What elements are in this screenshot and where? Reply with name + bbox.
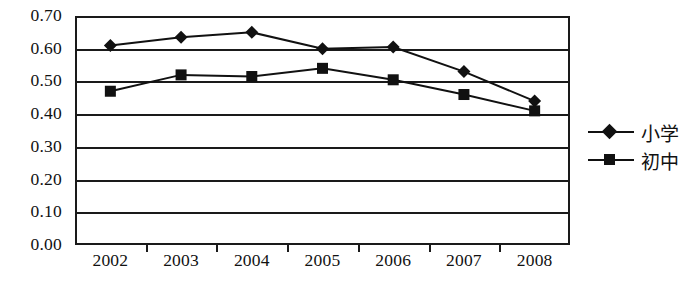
y-axis-tick-label: 0.30 [0, 138, 62, 156]
x-axis-tick [358, 245, 360, 252]
data-point-square[interactable] [458, 89, 469, 100]
line-chart: 0.700.600.500.400.300.200.100.00 2002200… [0, 0, 692, 286]
y-axis-tick-label: 0.10 [0, 203, 62, 221]
data-point-diamond[interactable] [175, 31, 188, 44]
x-axis-tick-label: 2005 [288, 252, 358, 270]
y-axis-tick-label: 0.00 [0, 236, 62, 254]
legend-label-junior: 初中 [641, 147, 679, 174]
data-point-square[interactable] [176, 69, 187, 80]
legend-label-primary: 小学 [641, 119, 679, 146]
legend-item-primary[interactable]: 小学 [588, 118, 692, 146]
y-axis-tick-label: 0.60 [0, 40, 62, 58]
y-axis-tick-label: 0.40 [0, 105, 62, 123]
data-point-square[interactable] [529, 105, 540, 116]
x-axis-tick-label: 2003 [146, 252, 216, 270]
diamond-marker-icon [588, 124, 634, 140]
data-point-diamond[interactable] [316, 42, 329, 55]
data-point-diamond[interactable] [387, 41, 400, 54]
y-axis-tick-label: 0.20 [0, 171, 62, 189]
chart-legend: 小学 初中 [588, 118, 692, 174]
square-marker-icon [588, 152, 634, 168]
x-axis-tick-label: 2008 [500, 252, 570, 270]
y-axis-tick-label: 0.50 [0, 72, 62, 90]
x-axis-tick [146, 245, 148, 252]
series-overlay [75, 16, 570, 245]
legend-item-junior[interactable]: 初中 [588, 146, 692, 174]
data-point-square[interactable] [246, 71, 257, 82]
data-point-square[interactable] [317, 63, 328, 74]
data-point-square[interactable] [388, 74, 399, 85]
y-axis-tick-label: 0.70 [0, 7, 62, 25]
data-point-diamond[interactable] [457, 65, 470, 78]
x-axis-tick-label: 2004 [217, 252, 287, 270]
x-axis-tick-label: 2007 [429, 252, 499, 270]
data-point-diamond[interactable] [104, 39, 117, 52]
x-axis-tick [216, 245, 218, 252]
x-axis-tick-label: 2006 [358, 252, 428, 270]
data-point-diamond[interactable] [245, 26, 258, 39]
x-axis-labels: 2002200320042005200620072008 [75, 252, 570, 282]
y-axis-labels: 0.700.600.500.400.300.200.100.00 [0, 0, 62, 286]
x-axis-tick [287, 245, 289, 252]
x-axis-tick [499, 245, 501, 252]
x-axis-tick-label: 2002 [75, 252, 145, 270]
x-axis-tick [429, 245, 431, 252]
data-point-square[interactable] [105, 86, 116, 97]
